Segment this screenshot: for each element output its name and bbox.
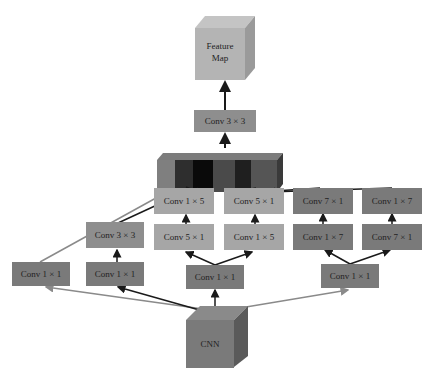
b3-l3-label: Conv 1 × 5 xyxy=(164,196,204,206)
b4-r3-label: Conv 1 × 7 xyxy=(372,196,412,206)
b4-l3-label: Conv 7 × 1 xyxy=(303,196,343,206)
feature-map-label-line1: Feature xyxy=(195,40,245,52)
arrow-b3-c1-r2 xyxy=(215,252,252,265)
b3-conv-5x1-box: Conv 5 × 1 xyxy=(154,224,214,250)
b4-conv-7x1-top-box: Conv 7 × 1 xyxy=(293,188,353,214)
arrow-b4-c1-r2 xyxy=(350,250,390,264)
b1-conv-label: Conv 1 × 1 xyxy=(21,269,61,279)
b3-conv-1x5-box: Conv 1 × 5 xyxy=(224,224,284,250)
b3-conv-1x1-box: Conv 1 × 1 xyxy=(186,265,244,289)
feature-map-label: Feature Map xyxy=(195,40,245,64)
arrow-cnn-to-b2 xyxy=(118,287,210,313)
b3-conv-1x5-top-box: Conv 1 × 5 xyxy=(154,188,214,214)
b3-c1-label: Conv 1 × 1 xyxy=(195,272,235,282)
b2-conv-3x3-box: Conv 3 × 3 xyxy=(86,222,144,248)
b3-conv-5x1-top-box: Conv 5 × 1 xyxy=(224,188,284,214)
b4-conv-7x1-box: Conv 7 × 1 xyxy=(362,224,422,250)
b4-l2-label: Conv 1 × 7 xyxy=(303,232,343,242)
feature-map-label-line2: Map xyxy=(195,52,245,64)
arrow-cnn-to-b4 xyxy=(240,290,348,308)
top-conv-label: Conv 3 × 3 xyxy=(205,116,245,126)
b4-conv-1x7-top-box: Conv 1 × 7 xyxy=(362,188,422,214)
arrow-b3-c1-l2 xyxy=(186,252,215,265)
b2-c1-label: Conv 1 × 1 xyxy=(95,269,135,279)
arrow-b4-c1-l2 xyxy=(325,250,350,264)
b1-conv-1x1-box: Conv 1 × 1 xyxy=(12,262,70,286)
b3-r3-label: Conv 5 × 1 xyxy=(234,196,274,206)
b4-r2-label: Conv 7 × 1 xyxy=(372,232,412,242)
concat-block xyxy=(157,153,283,192)
b3-r2-label: Conv 1 × 5 xyxy=(234,232,274,242)
cnn-cube xyxy=(186,306,248,368)
b2-conv-1x1-box: Conv 1 × 1 xyxy=(86,262,144,286)
b3-l2-label: Conv 5 × 1 xyxy=(164,232,204,242)
b2-c2-label: Conv 3 × 3 xyxy=(95,230,135,240)
b4-conv-1x7-box: Conv 1 × 7 xyxy=(293,224,353,250)
cnn-label: CNN xyxy=(186,338,234,350)
b4-c1-label: Conv 1 × 1 xyxy=(330,271,370,281)
b4-conv-1x1-box: Conv 1 × 1 xyxy=(321,264,379,288)
top-conv-3x3-box: Conv 3 × 3 xyxy=(194,110,256,132)
